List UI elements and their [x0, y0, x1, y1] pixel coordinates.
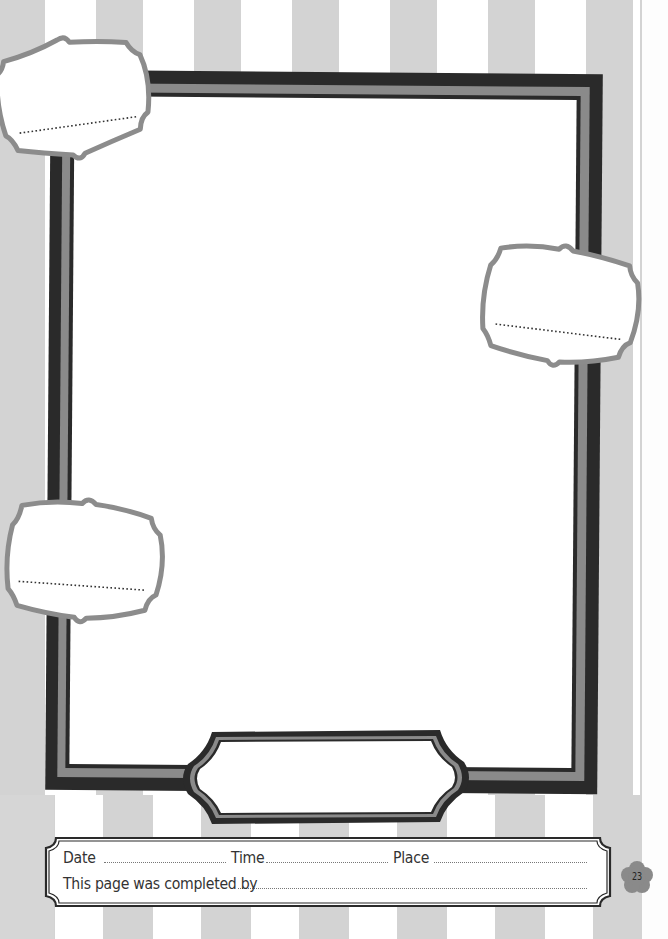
page-number-badge: 23 [620, 860, 654, 894]
caption-tag-left[interactable] [0, 488, 174, 640]
caption-tag-right[interactable] [476, 230, 648, 386]
scalloped-tag-shape [0, 488, 174, 640]
footer-frame [44, 836, 614, 908]
caption-tag-top-left[interactable] [0, 30, 158, 176]
time-field[interactable] [266, 861, 388, 863]
footer-row-completed-by: This page was completed by [63, 874, 592, 893]
date-label: Date [63, 848, 95, 867]
page-edge [642, 0, 668, 939]
plaque-shape [178, 728, 474, 826]
photo-area[interactable] [69, 96, 576, 768]
page-number: 23 [623, 860, 650, 894]
scalloped-tag-shape [476, 230, 648, 386]
footer-row-datetime: Date Time Place [63, 848, 592, 867]
photo-frame [45, 70, 603, 794]
place-field[interactable] [434, 861, 587, 863]
date-field[interactable] [104, 861, 226, 863]
scalloped-tag-shape [0, 30, 158, 176]
time-label: Time [231, 848, 257, 867]
footer-info-box: Date Time Place This page was completed … [44, 836, 614, 908]
completed-by-label: This page was completed by [63, 874, 213, 893]
completed-by-field[interactable] [238, 887, 587, 889]
title-plaque[interactable] [178, 728, 474, 826]
place-label: Place [393, 848, 425, 867]
